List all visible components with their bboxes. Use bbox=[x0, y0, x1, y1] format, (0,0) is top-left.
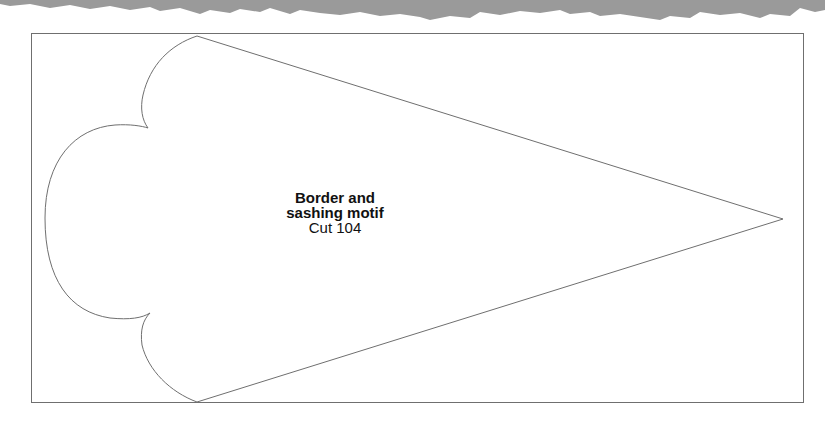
piece-title-line2: sashing motif bbox=[260, 205, 410, 220]
motif-outline bbox=[0, 0, 825, 433]
piece-label: Border and sashing motif Cut 104 bbox=[260, 190, 410, 235]
cut-count: Cut 104 bbox=[260, 220, 410, 235]
piece-title-line1: Border and bbox=[260, 190, 410, 205]
